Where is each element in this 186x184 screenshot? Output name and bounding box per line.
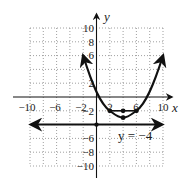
x-tick: −10 [18,101,36,113]
y-tick: −2 [82,105,94,117]
directrix-label: y = −4 [118,128,153,143]
parabola-graph: x y −10 −6 −2 2 6 10 10 8 6 2 −2 −6 −8 −… [0,0,186,184]
x-axis-label: x [171,100,178,115]
latus-left-point [107,108,112,113]
y-tick: 6 [89,49,95,61]
y-tick: −8 [82,146,94,158]
y-tick: −10 [77,160,95,172]
y-tick: 8 [89,36,95,48]
focus-point [121,108,126,113]
latus-right-point [134,108,139,113]
x-tick: −6 [49,101,61,113]
x-tick: 10 [158,101,170,113]
vertex-point [121,115,126,120]
directrix-intercept-point [94,122,98,126]
y-tick: 10 [83,22,95,34]
y-tick: −6 [82,132,94,144]
y-axis-label: y [102,9,110,24]
